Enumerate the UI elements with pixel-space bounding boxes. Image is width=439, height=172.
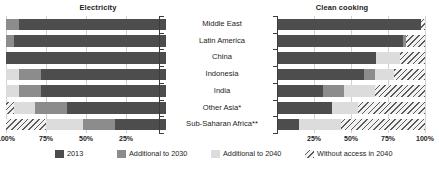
bar-segment-indonesia-additional-to-2030 xyxy=(19,69,41,81)
x-tick-label-clean-cooking-25: 25% xyxy=(299,135,329,142)
category-label-india: India xyxy=(168,83,276,100)
bar-segment-sub-saharan-africa-2013 xyxy=(277,119,299,131)
y-tick-0 xyxy=(160,16,164,17)
panel-title-clean-cooking: Clean cooking xyxy=(268,3,416,12)
x-tick-label-electricity-75: 75% xyxy=(31,135,61,142)
bar-row-other-asia xyxy=(6,100,166,117)
bar-segment-other-asia-additional-to-2040 xyxy=(332,102,359,114)
gridline-100 xyxy=(425,16,426,133)
bar-row-indonesia xyxy=(277,66,425,83)
y-tick-4 xyxy=(160,83,164,84)
bar-segment-indonesia-2013 xyxy=(277,69,364,81)
bar-segment-indonesia-2013 xyxy=(41,69,166,81)
y-tick-3 xyxy=(160,66,164,67)
bar-segment-sub-saharan-africa-additional-to-2030 xyxy=(83,119,115,131)
stacked-bar-india xyxy=(6,85,166,97)
category-label-china: China xyxy=(168,49,276,66)
stacked-bar-sub-saharan-africa xyxy=(277,119,425,131)
y-axis-spine-clean-cooking xyxy=(277,16,278,134)
bar-segment-other-asia-additional-to-2030 xyxy=(35,102,67,114)
bar-segment-latin-america-2013 xyxy=(277,35,403,47)
bar-segment-indonesia-additional-to-2040 xyxy=(375,69,394,81)
bar-segment-latin-america-2013 xyxy=(14,35,166,47)
bar-row-china xyxy=(6,49,166,66)
bar-segment-sub-saharan-africa-without-access-in-2040 xyxy=(341,119,425,131)
bar-segment-india-additional-to-2030 xyxy=(19,85,41,97)
legend-swatch-without-access-in-2040 xyxy=(305,150,314,158)
y-tick-1 xyxy=(160,33,164,34)
legend-label-2013: 2013 xyxy=(67,149,83,158)
bar-row-india xyxy=(6,83,166,100)
stacked-bar-china xyxy=(6,52,166,64)
bar-row-latin-america xyxy=(277,33,425,50)
stacked-bar-middle-east xyxy=(277,19,425,31)
category-label-indonesia: Indonesia xyxy=(168,66,276,83)
bar-row-other-asia xyxy=(277,100,425,117)
bar-segment-other-asia-2013 xyxy=(67,102,166,114)
bar-segment-india-2013 xyxy=(41,85,166,97)
bar-segment-latin-america-additional-to-2030 xyxy=(6,35,14,47)
y-tick-6 xyxy=(160,116,164,117)
legend-swatch-2013 xyxy=(55,150,64,158)
y-tick-7 xyxy=(273,133,277,134)
bar-segment-other-asia-without-access-in-2040 xyxy=(358,102,425,114)
plot-area-electricity xyxy=(6,16,166,133)
bar-segment-india-additional-to-2030 xyxy=(323,85,344,97)
bar-segment-china-without-access-in-2040 xyxy=(400,52,425,64)
bar-row-indonesia xyxy=(6,66,166,83)
x-tick-label-electricity-25: 25% xyxy=(111,135,141,142)
x-tick-label-electricity-50: 50% xyxy=(71,135,101,142)
legend-swatch-additional-to-2030 xyxy=(117,150,126,158)
legend-label-additional-to-2030: Additional to 2030 xyxy=(129,149,187,158)
bar-row-china xyxy=(277,49,425,66)
legend-item-additional-to-2040: Additional to 2040 xyxy=(211,149,281,158)
bar-segment-middle-east-2013 xyxy=(19,19,166,31)
stacked-bar-indonesia xyxy=(277,69,425,81)
stacked-bar-indonesia xyxy=(6,69,166,81)
bar-segment-other-asia-additional-to-2040 xyxy=(14,102,35,114)
bar-segment-india-additional-to-2040 xyxy=(344,85,375,97)
bar-segment-china-2013 xyxy=(6,52,166,64)
bar-row-middle-east xyxy=(6,16,166,33)
y-tick-7 xyxy=(160,133,164,134)
bar-segment-sub-saharan-africa-additional-to-2040 xyxy=(299,119,340,131)
category-label-column: Middle EastLatin AmericaChinaIndonesiaIn… xyxy=(168,16,276,133)
stacked-bar-other-asia xyxy=(277,102,425,114)
stacked-bar-sub-saharan-africa xyxy=(6,119,166,131)
plot-area-clean-cooking xyxy=(277,16,425,133)
stacked-bar-china xyxy=(277,52,425,64)
chart-legend: 2013 Additional to 2030 Additional to 20… xyxy=(0,149,432,169)
bar-segment-middle-east-2013 xyxy=(277,19,421,31)
bar-segment-china-2013 xyxy=(277,52,376,64)
bar-segment-middle-east-additional-to-2030 xyxy=(6,19,19,31)
y-tick-5 xyxy=(160,100,164,101)
legend-item-2013: 2013 xyxy=(55,149,83,158)
stacked-bar-india xyxy=(277,85,425,97)
category-label-latin-america: Latin America xyxy=(168,33,276,50)
category-label-sub-saharan-africa: Sub-Saharan Africa** xyxy=(168,116,276,133)
bar-row-sub-saharan-africa xyxy=(277,116,425,133)
x-tick-label-clean-cooking-50: 50% xyxy=(336,135,366,142)
x-tick-label-clean-cooking-100: 100% xyxy=(410,135,439,142)
panel-title-electricity: Electricity xyxy=(28,3,168,12)
bar-segment-indonesia-additional-to-2040 xyxy=(6,69,19,81)
bar-row-latin-america xyxy=(6,33,166,50)
category-label-other-asia: Other Asia* xyxy=(168,100,276,117)
x-tick-label-electricity-100: 100% xyxy=(0,135,21,142)
bar-segment-indonesia-additional-to-2030 xyxy=(364,69,374,81)
bar-segment-other-asia-without-access-in-2040 xyxy=(6,102,14,114)
stacked-bar-latin-america xyxy=(277,35,425,47)
legend-label-without-access-in-2040: Without access in 2040 xyxy=(317,149,392,158)
legend-swatch-additional-to-2040 xyxy=(211,150,220,158)
bar-segment-middle-east-without-access-in-2040 xyxy=(421,19,425,31)
stacked-bar-latin-america xyxy=(6,35,166,47)
bar-segment-india-without-access-in-2040 xyxy=(375,85,425,97)
bar-segment-sub-saharan-africa-without-access-in-2040 xyxy=(6,119,46,131)
bar-segment-sub-saharan-africa-additional-to-2040 xyxy=(46,119,83,131)
bar-segment-india-additional-to-2040 xyxy=(6,85,19,97)
legend-item-without-access-in-2040: Without access in 2040 xyxy=(305,149,392,158)
x-tick-label-clean-cooking-75: 75% xyxy=(373,135,403,142)
bar-segment-indonesia-without-access-in-2040 xyxy=(394,69,425,81)
bar-segment-other-asia-2013 xyxy=(277,102,332,114)
